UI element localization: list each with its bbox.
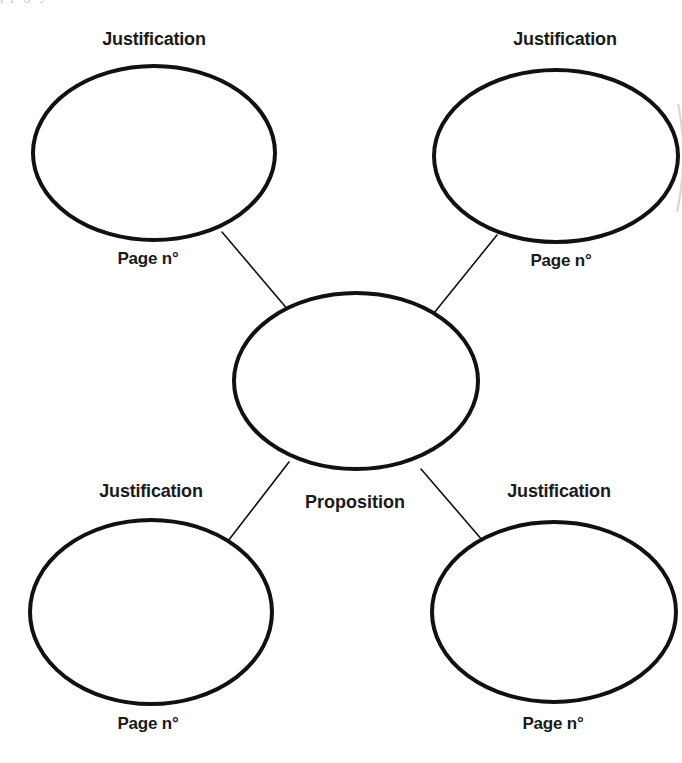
connector-top-left xyxy=(222,232,289,311)
ellipse-justification-top-right[interactable] xyxy=(434,70,678,242)
ellipse-justification-top-left[interactable] xyxy=(33,66,275,240)
label-justification-top-left-title: Justification xyxy=(102,29,205,49)
label-justification-top-right-page: Page n° xyxy=(530,251,591,271)
label-justification-bottom-left-page: Page n° xyxy=(117,714,178,734)
label-justification-top-left-page: Page n° xyxy=(117,249,178,269)
concept-map-canvas xyxy=(0,0,682,763)
label-proposition: Proposition xyxy=(305,492,405,513)
ellipse-justification-bottom-right[interactable] xyxy=(432,522,676,702)
label-justification-top-right-title: Justification xyxy=(513,29,616,49)
diagram-page: p page y Ju xyxy=(0,0,682,763)
ellipse-proposition[interactable] xyxy=(234,293,478,469)
connector-top-right xyxy=(434,235,497,313)
label-justification-bottom-right-page: Page n° xyxy=(522,714,583,734)
ellipse-justification-bottom-left[interactable] xyxy=(30,520,272,704)
label-justification-bottom-left-title: Justification xyxy=(99,481,202,501)
connector-bottom-left xyxy=(228,462,289,541)
connector-bottom-right xyxy=(421,469,483,541)
node-shape-group xyxy=(30,66,678,704)
label-justification-bottom-right-title: Justification xyxy=(507,481,610,501)
